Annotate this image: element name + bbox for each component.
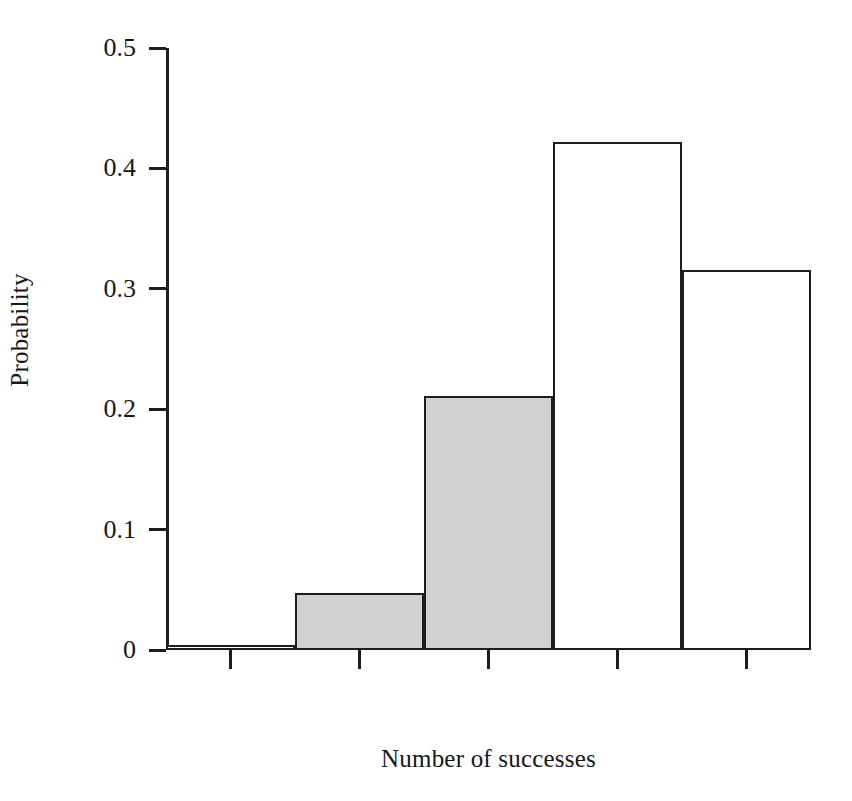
y-axis-line <box>166 48 169 650</box>
y-tick-label: 0.4 <box>104 153 137 183</box>
x-tick-1: 1 <box>358 650 361 669</box>
bar-1 <box>295 593 424 650</box>
y-tick-0.3: 0.3 <box>149 287 166 290</box>
y-tick-0.1: 0.1 <box>149 528 166 531</box>
bar-2 <box>424 396 553 650</box>
y-tick-label: 0.2 <box>104 394 137 424</box>
y-tick-label: 0 <box>123 635 136 665</box>
bar-4 <box>682 270 811 650</box>
bar-0 <box>166 645 295 650</box>
x-tick-4: 4 <box>745 650 748 669</box>
y-tick-label: 0.5 <box>104 33 137 63</box>
x-axis-title: Number of successes <box>166 745 811 773</box>
y-tick-label: 0.3 <box>104 274 137 304</box>
plot-area: 0.50.40.30.20.10 01234 <box>166 48 811 650</box>
x-tick-3: 3 <box>616 650 619 669</box>
y-tick-0.4: 0.4 <box>149 167 166 170</box>
y-tick-0.5: 0.5 <box>149 47 166 50</box>
probability-histogram-figure: Probability Number of successes 0.50.40.… <box>0 0 852 801</box>
bar-3 <box>553 142 682 650</box>
y-tick-label: 0.1 <box>104 515 137 545</box>
y-tick-0.2: 0.2 <box>149 408 166 411</box>
x-tick-0: 0 <box>229 650 232 669</box>
y-tick-0: 0 <box>149 649 166 652</box>
x-tick-2: 2 <box>487 650 490 669</box>
y-axis-title: Probability <box>6 250 34 410</box>
